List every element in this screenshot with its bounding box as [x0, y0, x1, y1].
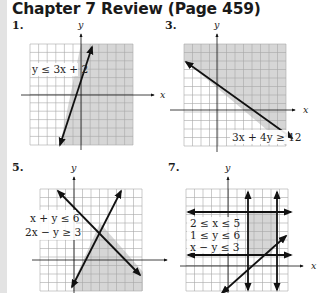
page-margin-strip — [0, 0, 7, 293]
y-axis-label: y — [213, 19, 220, 30]
page-title: Chapter 7 Review (Page 459) — [12, 0, 261, 18]
y-axis-label: y — [224, 162, 231, 173]
inequality-label: y ≤ 3x + 2 — [31, 63, 88, 75]
x-axis-label: x — [160, 89, 166, 100]
inequality-label-2: 2x − y ≥ 3 — [25, 226, 81, 238]
inequality-label: 3x + 4y ≥ 12 — [232, 131, 302, 143]
y-axis-label: y — [70, 162, 77, 173]
inequality-label-2: 1 ≤ y ≤ 6 — [190, 229, 241, 241]
graph-problem-5: y x + y ≤ 6 2x − y ≥ 3 — [20, 165, 170, 293]
graph-problem-3: x y 3x + 4y ≥ 12 — [175, 22, 319, 152]
inequality-label-1: 2 ≤ x ≤ 5 — [190, 217, 240, 229]
y-axis-label: y — [77, 19, 84, 30]
inequality-label-1: x + y ≤ 6 — [30, 212, 80, 224]
x-axis-label: x — [311, 260, 317, 271]
inequality-label-3: x − y ≤ 3 — [190, 241, 239, 253]
graph-problem-1: x y y ≤ 3x + 2 — [20, 22, 155, 152]
graph-problem-7: x y 2 ≤ x ≤ 5 1 ≤ y ≤ 6 x − y ≤ 3 — [178, 165, 319, 293]
x-axis-label: x — [303, 104, 309, 115]
